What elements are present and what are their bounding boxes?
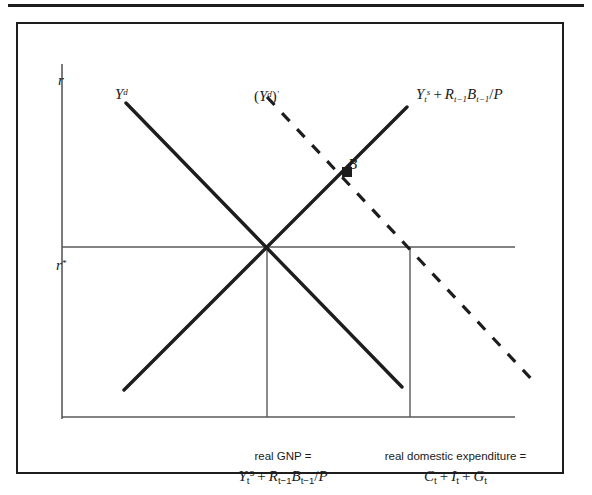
caption-expenditure-line1: real domestic expenditure =	[385, 450, 527, 462]
y-axis-label: r	[58, 72, 64, 89]
r-star-label-superscript: *	[62, 258, 67, 268]
shifted-demand-curve	[267, 97, 537, 385]
shifted-label-prime: ′	[277, 89, 279, 99]
figure-box: r r* Yd (Yd)′ Yts + Rt−1Bt−1/P B real GN…	[16, 22, 564, 474]
point-b-label-text: B	[348, 156, 357, 172]
demand-curve-label: Yd	[115, 86, 128, 103]
point-b-label: B	[348, 156, 357, 173]
shifted-demand-curve-label: (Yd)′	[254, 88, 279, 105]
caption-expenditure: real domestic expenditure = Ct + It + Gt	[348, 448, 563, 488]
demand-curve-label-superscript: d	[123, 87, 128, 97]
r-star-label: r*	[56, 257, 66, 274]
supply-curve-label: Yts + Rt−1Bt−1/P	[416, 86, 503, 104]
supply-curve-label-text: Yts + Rt−1Bt−1/P	[416, 87, 503, 102]
y-axis-label-text: r	[58, 72, 64, 88]
page-top-rule	[8, 4, 584, 7]
caption-expenditure-line2: Ct + It + Gt	[348, 466, 563, 488]
caption-gnp-line1: real GNP =	[255, 450, 312, 462]
